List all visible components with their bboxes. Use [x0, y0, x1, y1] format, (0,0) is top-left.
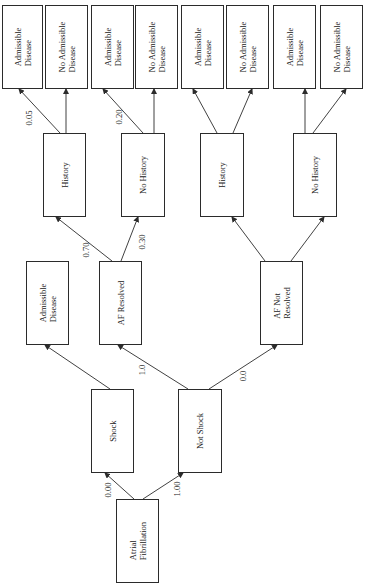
- node-atrial-fibrillation: AtrialFibrillation: [116, 499, 159, 583]
- edge-label-af-resolved-history: 0.70: [81, 243, 91, 258]
- leaf-admissible-disease-3: AdmissibleDisease: [181, 5, 224, 89]
- node-not-shock: Not Shock: [178, 389, 222, 473]
- node-not-resolved-no-history: No History: [293, 133, 337, 217]
- edge-af-not-resolved-history: [232, 217, 265, 261]
- decision-tree-diagram: AdmissibleDisease No AdmissibleDisease A…: [0, 0, 379, 584]
- edge-label-not-shock-af-not-resolved: 0.0: [238, 371, 248, 382]
- edge-no-history-leaf8: [313, 89, 346, 133]
- edge-label-no-history-admissible: 0.20: [114, 110, 124, 125]
- node-shock: Shock: [91, 389, 134, 473]
- node-resolved-no-history: No History: [121, 133, 165, 217]
- leaf-no-admissible-disease-3: No AdmissibleDisease: [226, 5, 269, 89]
- node-shock-admissible-disease: AdmissibleDisease: [26, 261, 69, 345]
- edge-history-leaf5: [193, 89, 217, 133]
- leaf-admissible-disease-1: AdmissibleDisease: [2, 5, 43, 89]
- edge-label-root-not-shock: 1.00: [172, 482, 182, 497]
- edge-not-shock-af-not-resolved: [209, 345, 277, 389]
- leaf-admissible-disease-2: AdmissibleDisease: [91, 5, 134, 89]
- node-af-resolved: AF Resolved: [99, 261, 142, 345]
- edge-label-root-shock: 0.00: [103, 483, 113, 498]
- node-af-not-resolved: AF NotResolved: [260, 261, 303, 345]
- edge-label-af-resolved-no-history: 0.30: [137, 235, 147, 250]
- edge-af-not-resolved-no-history: [291, 217, 324, 261]
- edge-history-leaf6: [233, 89, 252, 133]
- leaf-no-admissible-disease-2: No AdmissibleDisease: [135, 5, 178, 89]
- node-resolved-history: History: [43, 133, 86, 217]
- edge-af-resolved-no-history: [121, 217, 138, 261]
- edge-shock-admissible: [45, 345, 110, 389]
- leaf-admissible-disease-4: AdmissibleDisease: [273, 5, 316, 89]
- leaf-no-admissible-disease-1: No AdmissibleDisease: [45, 5, 88, 89]
- leaf-no-admissible-disease-4: No AdmissibleDisease: [320, 5, 363, 89]
- node-not-resolved-history: History: [200, 133, 244, 217]
- edge-label-not-shock-af-resolved: 1.0: [137, 365, 147, 376]
- edge-label-history-admissible: 0.05: [24, 111, 34, 126]
- edge-not-shock-af-resolved: [118, 345, 188, 389]
